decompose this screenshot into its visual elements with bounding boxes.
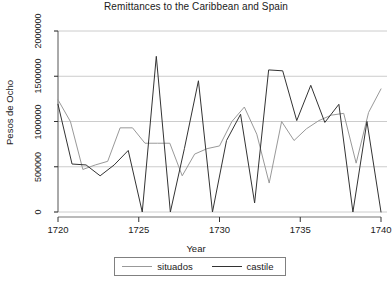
series-line-castile bbox=[58, 56, 381, 212]
plot-area bbox=[0, 0, 392, 281]
legend-label-castile: castile bbox=[247, 261, 274, 272]
chart-container: Remittances to the Caribbean and Spain P… bbox=[0, 0, 392, 281]
legend-swatch-castile bbox=[212, 266, 242, 267]
legend-label-situados: situados bbox=[157, 261, 192, 272]
legend-item-castile: castile bbox=[200, 261, 285, 272]
chart-legend: situados castile bbox=[114, 257, 286, 276]
legend-swatch-situados bbox=[122, 266, 152, 267]
series-line-situados bbox=[58, 89, 381, 183]
legend-item-situados: situados bbox=[115, 261, 200, 272]
